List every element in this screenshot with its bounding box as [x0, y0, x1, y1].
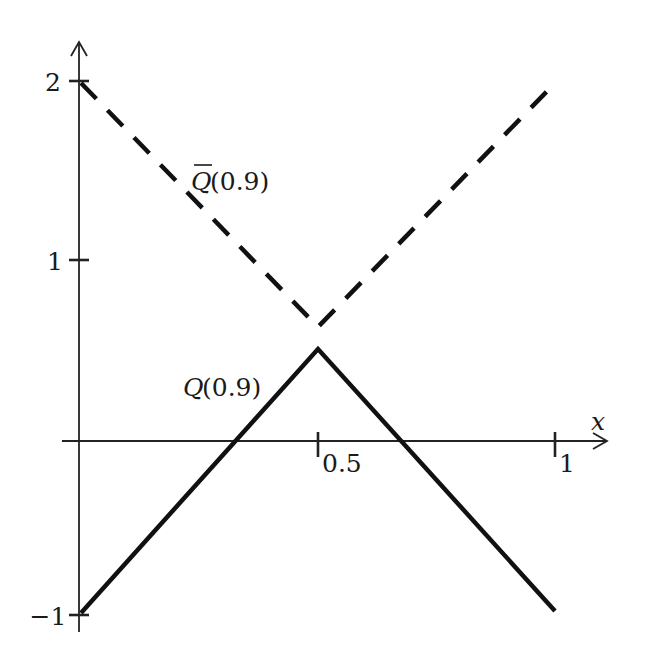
- tick-label-x-1: 1: [559, 449, 575, 478]
- qbar-letter: Q: [191, 167, 212, 196]
- series-q-solid-line: [81, 349, 555, 613]
- tick-label-y-2: 2: [45, 68, 61, 97]
- label-qbar: Q (0.9): [191, 165, 269, 196]
- tick-label-y-neg1: −1: [30, 602, 67, 631]
- q-arg: (0.9): [202, 373, 261, 402]
- qbar-arg: (0.9): [210, 167, 269, 196]
- tick-label-x-0.5: 0.5: [322, 449, 362, 478]
- q-letter: Q: [183, 373, 204, 402]
- label-q: Q (0.9): [183, 373, 261, 402]
- chart: 2 1 −1 0.5 1 x Q (0.9) Q (0.9): [0, 0, 645, 647]
- tick-label-y-1: 1: [47, 247, 63, 276]
- series-qbar-dashed-line: [81, 83, 555, 327]
- x-axis-label: x: [591, 407, 605, 436]
